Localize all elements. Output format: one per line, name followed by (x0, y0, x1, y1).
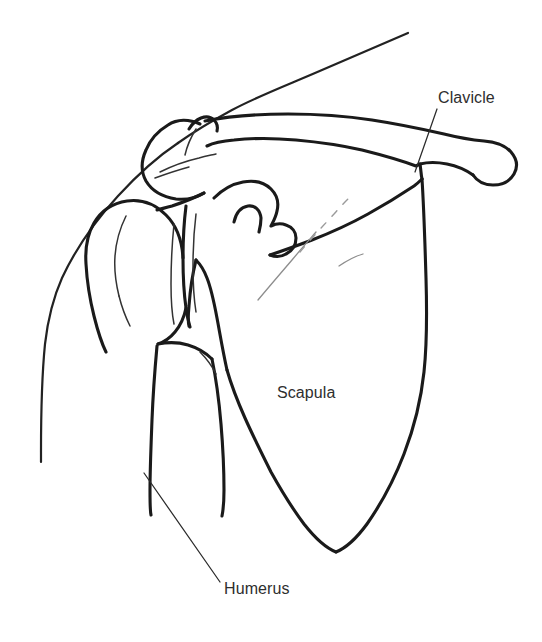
shoulder-anatomy-figure: Clavicle Scapula Humerus (0, 0, 542, 642)
clavicle-medial-end (420, 164, 422, 179)
label-humerus: Humerus (224, 580, 290, 597)
label-clavicle: Clavicle (438, 89, 495, 106)
label-scapula: Scapula (277, 384, 336, 401)
anatomy-illustration: Clavicle Scapula Humerus (0, 0, 542, 642)
